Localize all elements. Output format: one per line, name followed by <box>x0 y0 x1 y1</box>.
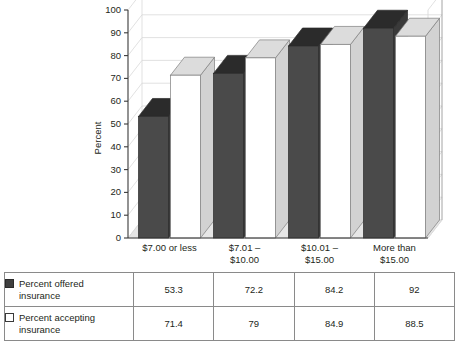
cell-accepting-2: 84.9 <box>294 307 374 341</box>
data-table: Percent offeredinsurance 53.3 72.2 84.2 … <box>4 272 455 341</box>
x-axis-tick-label: $7.01 – <box>229 242 261 253</box>
gridline-depth <box>128 15 142 33</box>
table-row: Percent acceptinginsurance 71.4 79 84.9 … <box>5 307 455 341</box>
legend-label-offered: Percent offeredinsurance <box>19 278 84 301</box>
chart-plot-area: 0102030405060708090100Percent$7.00 or le… <box>0 0 459 268</box>
bar-offered-front-1 <box>214 73 244 238</box>
legend-label-accepting: Percent acceptinginsurance <box>19 312 95 335</box>
cell-accepting-3: 88.5 <box>374 307 454 341</box>
bar-accepting-front-1 <box>246 58 276 238</box>
cell-offered-1: 72.2 <box>214 273 294 307</box>
gridline-depth <box>128 60 142 78</box>
y-axis-tick-label: 40 <box>110 141 121 152</box>
legend-swatch-hollow-icon <box>5 313 14 322</box>
table-row: Percent offeredinsurance 53.3 72.2 84.2 … <box>5 273 455 307</box>
cell-offered-0: 53.3 <box>134 273 214 307</box>
bar-offered-front-0 <box>139 116 169 238</box>
gridline-depth <box>128 0 142 10</box>
y-axis-tick-label: 20 <box>110 186 121 197</box>
x-axis-tick-label: More than <box>373 242 416 253</box>
gridline-depth <box>128 83 142 101</box>
bar-accepting-side-1 <box>276 40 290 238</box>
gridline-depth <box>128 38 142 56</box>
bar-accepting-front-2 <box>321 44 351 238</box>
legend-label-accepting-line1: Percent accepting <box>19 312 95 323</box>
cell-offered-3: 92 <box>374 273 454 307</box>
bar-accepting-front-3 <box>396 36 426 238</box>
bar-accepting-side-0 <box>201 57 215 238</box>
bar-offered-front-2 <box>289 46 319 238</box>
cell-offered-2: 84.2 <box>294 273 374 307</box>
bar-chart-svg: 0102030405060708090100Percent$7.00 or le… <box>0 0 459 268</box>
y-axis-tick-label: 50 <box>110 118 121 129</box>
bar-offered-front-3 <box>364 28 394 238</box>
y-axis-tick-label: 30 <box>110 164 121 175</box>
bar-accepting-side-2 <box>351 26 365 238</box>
bar-accepting-front-0 <box>171 75 201 238</box>
y-axis-tick-label: 60 <box>110 95 121 106</box>
cell-accepting-1: 79 <box>214 307 294 341</box>
legend-label-offered-line2: insurance <box>19 290 60 301</box>
x-axis-tick-label: $15.00 <box>380 254 409 265</box>
y-axis-tick-label: 100 <box>105 4 121 15</box>
bar-accepting-side-3 <box>426 18 440 238</box>
y-axis-tick-label: 70 <box>110 72 121 83</box>
cell-accepting-0: 71.4 <box>134 307 214 341</box>
legend-label-offered-line1: Percent offered <box>19 278 84 289</box>
x-axis-tick-label: $10.01 – <box>301 242 339 253</box>
y-axis-tick-label: 0 <box>116 232 121 243</box>
x-axis-tick-label: $7.00 or less <box>142 242 197 253</box>
legend-cell-offered: Percent offeredinsurance <box>5 273 134 307</box>
y-axis-tick-label: 10 <box>110 209 121 220</box>
x-axis-tick-label: $15.00 <box>305 254 334 265</box>
gridline-right-wall <box>428 0 442 10</box>
y-axis-title: Percent <box>92 121 103 154</box>
legend-cell-accepting: Percent acceptinginsurance <box>5 307 134 341</box>
figure-root: 0102030405060708090100Percent$7.00 or le… <box>0 0 459 343</box>
y-axis-tick-label: 80 <box>110 50 121 61</box>
y-axis-tick-label: 90 <box>110 27 121 38</box>
legend-swatch-filled-icon <box>5 279 14 288</box>
x-axis-tick-label: $10.00 <box>230 254 259 265</box>
legend-label-accepting-line2: insurance <box>19 324 60 335</box>
